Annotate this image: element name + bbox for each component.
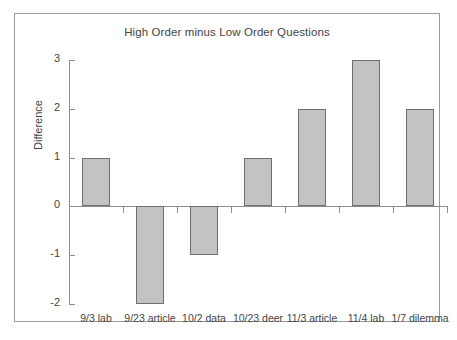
x-boundary-tick bbox=[285, 206, 286, 213]
x-boundary-tick bbox=[123, 206, 124, 213]
chart-frame: High Order minus Low Order Questions Dif… bbox=[14, 13, 440, 322]
figure-caption bbox=[14, 328, 434, 337]
bar-11-3-article[interactable] bbox=[298, 109, 326, 207]
y-tick-mark bbox=[69, 158, 75, 159]
plot-area: 3 2 1 0 -1 -2 bbox=[69, 60, 448, 304]
y-tick-label: 0 bbox=[54, 198, 60, 210]
x-label-11-3-article: 11/3 article bbox=[287, 312, 338, 324]
x-label-10-23-deer: 10/23 deer bbox=[233, 312, 283, 324]
x-boundary-tick bbox=[393, 206, 394, 213]
y-tick-mark bbox=[69, 60, 75, 61]
x-label-9-3-lab: 9/3 lab bbox=[80, 312, 112, 324]
bar-9-23-article[interactable] bbox=[136, 206, 164, 304]
x-label-11-4-lab: 11/4 lab bbox=[348, 312, 385, 324]
y-tick-mark bbox=[69, 109, 75, 110]
y-tick-label: -2 bbox=[50, 296, 60, 308]
y-axis-title: Difference bbox=[32, 100, 44, 150]
y-tick-mark bbox=[69, 304, 75, 305]
bar-10-2-data[interactable] bbox=[190, 206, 218, 255]
y-tick-label: 1 bbox=[54, 150, 60, 162]
x-boundary-tick bbox=[447, 206, 448, 213]
y-tick-mark bbox=[69, 255, 75, 256]
y-axis-line bbox=[69, 60, 70, 304]
x-label-1-7-dilemma: 1/7 dilemma bbox=[391, 312, 448, 324]
bar-1-7-dilemma[interactable] bbox=[406, 109, 434, 207]
x-boundary-tick bbox=[231, 206, 232, 213]
bar-9-3-lab[interactable] bbox=[82, 158, 110, 207]
x-label-9-23-article: 9/23 article bbox=[124, 312, 175, 324]
x-axis-line bbox=[69, 206, 448, 207]
x-boundary-tick bbox=[69, 206, 70, 213]
figure-container: High Order minus Low Order Questions Dif… bbox=[0, 0, 457, 340]
bar-10-23-deer[interactable] bbox=[244, 158, 272, 207]
bar-11-4-lab[interactable] bbox=[352, 60, 380, 206]
x-label-10-2-data: 10/2 data bbox=[182, 312, 226, 324]
y-tick-label: 2 bbox=[54, 101, 60, 113]
y-tick-label: 3 bbox=[54, 52, 60, 64]
y-tick-label: -1 bbox=[50, 247, 60, 259]
chart-title: High Order minus Low Order Questions bbox=[15, 26, 439, 38]
x-boundary-tick bbox=[177, 206, 178, 213]
x-boundary-tick bbox=[339, 206, 340, 213]
